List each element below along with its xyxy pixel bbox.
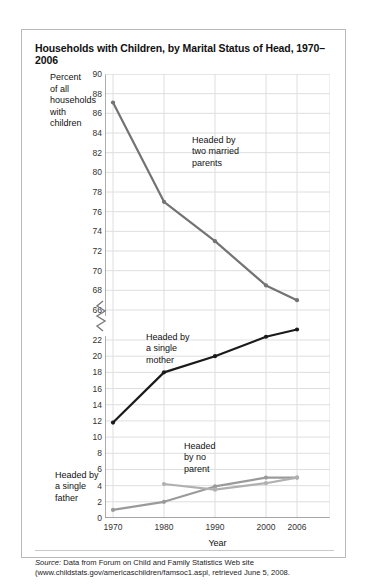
- x-axis-tick: 1980: [155, 522, 174, 532]
- annotation-line: two married: [192, 146, 239, 157]
- x-axis-tick: 1970: [104, 522, 123, 532]
- y-axis-tick: 16: [72, 384, 102, 394]
- y-axis-tick: 18: [72, 367, 102, 377]
- chart-title: Households with Children, by Marital Sta…: [35, 42, 335, 66]
- y-axis-tick: 74: [72, 226, 102, 236]
- y-axis-tick: 68: [72, 285, 102, 295]
- axis-break-icon: [94, 300, 110, 334]
- annotation-line: mother: [146, 355, 190, 366]
- x-axis-title: Year: [105, 538, 330, 548]
- x-axis-tick: 2000: [257, 522, 276, 532]
- y-axis-tick: 90: [72, 69, 102, 79]
- annotation-line: parents: [192, 158, 239, 169]
- annotation-line: Headed: [184, 441, 216, 452]
- source-label: Source:: [35, 558, 61, 567]
- figure-panel: Households with Children, by Marital Sta…: [21, 29, 346, 558]
- annotation-line: by no: [184, 452, 216, 463]
- source-text-line2: (www.childstats.gov/americaschildren/fam…: [35, 568, 290, 577]
- x-axis-tick: 1990: [206, 522, 225, 532]
- y-axis-tick: 22: [72, 335, 102, 345]
- note-divider: [35, 550, 334, 551]
- y-axis-tick: 8: [72, 448, 102, 458]
- x-axis-tick: 2006: [288, 522, 307, 532]
- annotation-married-parents: Headed bytwo marriedparents: [192, 135, 239, 169]
- y-axis-tick: 70: [72, 266, 102, 276]
- annotation-line: a single: [146, 343, 190, 354]
- y-axis-tick: 12: [72, 416, 102, 426]
- y-axis-tick: 76: [72, 207, 102, 217]
- y-axis-tick: 0: [72, 513, 102, 523]
- annotation-single-mother: Headed bya singlemother: [146, 332, 190, 366]
- annotation-line: Headed by: [192, 135, 239, 146]
- y-axis-tick: 88: [72, 89, 102, 99]
- y-axis-tick-labels: 6668707274767880828486889002468101214161…: [70, 74, 102, 518]
- y-axis-tick: 72: [72, 246, 102, 256]
- source-note: Source: Data from Forum on Child and Fam…: [35, 558, 335, 578]
- y-axis-tick: 78: [72, 187, 102, 197]
- annotation-line: parent: [184, 464, 216, 475]
- y-axis-tick: 10: [72, 432, 102, 442]
- y-axis-tick: 20: [72, 351, 102, 361]
- y-axis-tick: 84: [72, 128, 102, 138]
- y-axis-tick: 14: [72, 400, 102, 410]
- y-axis-tick: 82: [72, 148, 102, 158]
- annotation-line: Headed by: [146, 332, 190, 343]
- source-text-line1: Data from Forum on Child and Family Stat…: [61, 558, 254, 567]
- y-axis-tick: 80: [72, 167, 102, 177]
- annotation-single-father: Headed bya singlefather: [55, 470, 99, 504]
- annotation-no-parent: Headedby noparent: [184, 441, 216, 475]
- annotation-line: Headed by: [55, 470, 99, 481]
- annotation-line: father: [55, 493, 99, 504]
- y-axis-tick: 86: [72, 108, 102, 118]
- annotation-line: a single: [55, 481, 99, 492]
